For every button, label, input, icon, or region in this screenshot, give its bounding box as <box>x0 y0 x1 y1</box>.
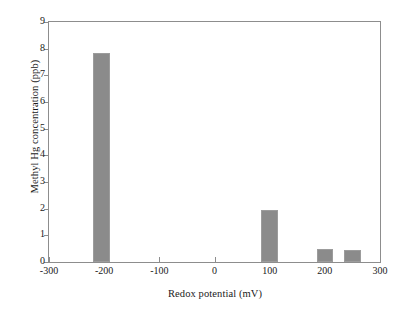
y-tick-label: 5 <box>40 122 45 133</box>
y-tick-label: 3 <box>40 175 45 186</box>
x-tick-mark <box>49 257 50 262</box>
y-tick-label: 4 <box>40 148 45 159</box>
x-tick-mark <box>215 257 216 262</box>
x-tick-label: -100 <box>150 265 168 276</box>
x-tick-label: 100 <box>262 265 277 276</box>
x-tick-label: 300 <box>373 265 388 276</box>
bar <box>344 250 361 262</box>
bar <box>317 249 334 262</box>
x-tick-label: -300 <box>40 265 58 276</box>
bar <box>261 210 278 262</box>
x-tick-label: -200 <box>95 265 113 276</box>
x-tick-mark <box>380 257 381 262</box>
x-tick-label: 0 <box>212 265 217 276</box>
x-axis-title: Redox potential (mV) <box>48 288 382 299</box>
y-tick-label: 2 <box>40 202 45 213</box>
x-tick-label: 200 <box>317 265 332 276</box>
bar <box>93 53 110 262</box>
y-tick-label: 6 <box>40 95 45 106</box>
y-tick-label: 1 <box>40 228 45 239</box>
x-tick-mark <box>159 257 160 262</box>
chart-figure: Methyl Hg concentration (ppb) 0123456789… <box>0 0 402 313</box>
plot-area: 0123456789 -300-200-1000100200300 <box>48 21 381 263</box>
y-tick-label: 7 <box>40 68 45 79</box>
y-axis-title: Methyl Hg concentration (ppb) <box>29 7 40 247</box>
y-tick-label: 9 <box>40 15 45 26</box>
y-tick-label: 8 <box>40 42 45 53</box>
